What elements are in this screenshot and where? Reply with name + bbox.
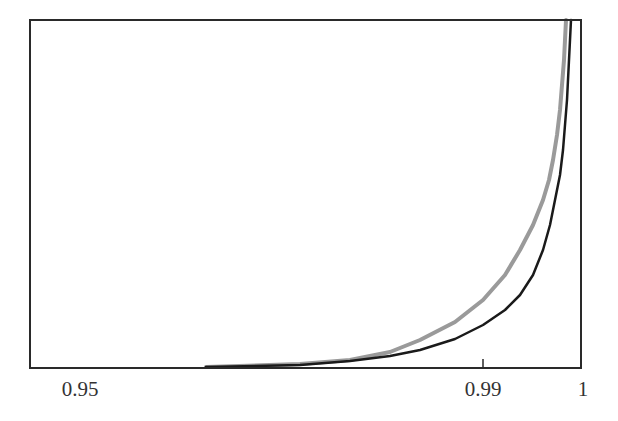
line-chart bbox=[0, 0, 618, 421]
black-curve bbox=[206, 20, 571, 367]
x-tick-label-0.95: 0.95 bbox=[62, 377, 99, 402]
series-layer bbox=[206, 20, 571, 367]
x-tick-label-1: 1 bbox=[578, 377, 589, 402]
gray-curve bbox=[206, 20, 566, 367]
x-tick-label-0.99: 0.99 bbox=[465, 377, 502, 402]
